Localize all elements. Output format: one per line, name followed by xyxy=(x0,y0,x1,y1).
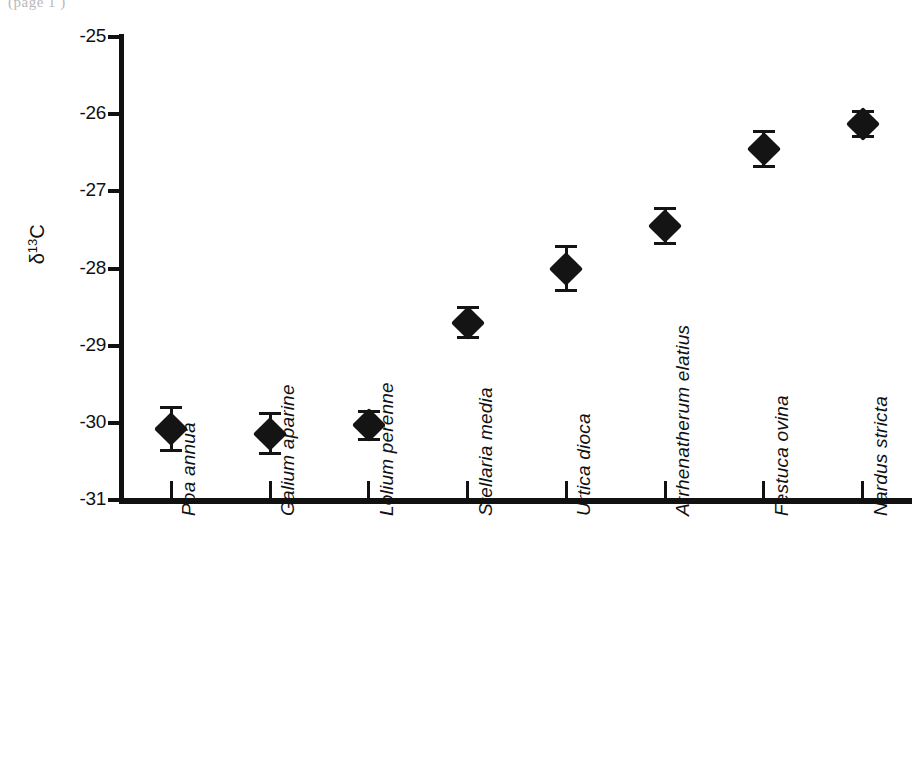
error-bar-cap-lower xyxy=(654,242,676,245)
x-axis-category-label: Festuca ovina xyxy=(771,395,793,516)
x-axis-tick xyxy=(762,481,765,500)
y-axis-tick xyxy=(108,421,120,425)
x-axis-category-label: Arrhenatherum elatius xyxy=(672,325,694,516)
diamond-marker-icon xyxy=(648,209,682,243)
error-bar-cap-lower xyxy=(555,289,577,292)
x-axis-tick xyxy=(170,481,173,500)
x-axis-tick xyxy=(861,481,864,500)
x-axis-category-label: Poa annua xyxy=(178,422,200,516)
y-axis-tick-label: -26 xyxy=(58,102,106,124)
x-axis-tick xyxy=(367,481,370,500)
x-axis-tick xyxy=(269,481,272,500)
x-axis-tick xyxy=(466,481,469,500)
y-axis-tick-label: -27 xyxy=(58,179,106,201)
y-axis-tick xyxy=(108,189,120,193)
figure-canvas: (page 1 ) δ13C -25-26-27-28-29-30-31 Poa… xyxy=(0,0,918,758)
y-axis-tick-label: -31 xyxy=(58,488,106,510)
y-axis-tick xyxy=(108,498,120,502)
x-axis-tick xyxy=(664,481,667,500)
x-axis-line xyxy=(119,498,912,504)
y-axis-tick-label: -25 xyxy=(58,25,106,47)
diamond-marker-icon xyxy=(451,306,485,340)
y-axis-tick-label: -30 xyxy=(58,411,106,433)
scan-artifact-text: (page 1 ) xyxy=(8,0,66,11)
y-axis-tick xyxy=(108,35,120,39)
y-axis-tick xyxy=(108,112,120,116)
error-bar-cap-upper xyxy=(160,406,182,409)
x-axis-category-label: Urtica dioca xyxy=(573,413,595,516)
y-axis-title-element: C xyxy=(26,224,48,238)
y-axis-tick xyxy=(108,344,120,348)
y-axis-tick-label: -28 xyxy=(58,257,106,279)
error-bar-cap-upper xyxy=(555,245,577,248)
y-axis-tick xyxy=(108,267,120,271)
y-axis-tick-label: -29 xyxy=(58,334,106,356)
x-axis-category-label: Nardus stricta xyxy=(870,396,892,516)
x-axis-category-label: Stellaria media xyxy=(475,387,497,516)
y-axis-title: δ13C xyxy=(25,199,50,289)
y-axis-title-superscript: 13 xyxy=(25,239,40,253)
y-axis-title-delta: δ xyxy=(26,253,48,264)
x-axis-category-label: Lolium perenne xyxy=(376,382,398,516)
diamond-marker-icon xyxy=(549,252,583,286)
x-axis-tick xyxy=(565,481,568,500)
diamond-marker-icon xyxy=(747,132,781,166)
x-axis-category-label: Galium aparine xyxy=(277,384,299,516)
